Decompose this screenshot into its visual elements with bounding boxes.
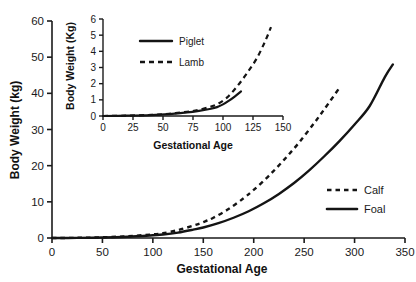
figure-container: 050100150200250300350 0102030405060 Gest… xyxy=(0,0,416,282)
main-legend: Calf Foal xyxy=(327,184,385,215)
x-tick-label: 150 xyxy=(194,246,213,258)
x-tick-label: 125 xyxy=(245,122,262,133)
y-tick-label: 20 xyxy=(31,160,44,172)
y-tick-label: 0 xyxy=(38,232,44,244)
y-tick-label: 50 xyxy=(31,51,44,63)
gestational-age-body-weight-chart: 050100150200250300350 0102030405060 Gest… xyxy=(0,0,416,282)
x-tick-label: 150 xyxy=(275,122,292,133)
inset-axes xyxy=(99,19,283,120)
inset-legend: Piglet Lamb xyxy=(140,36,204,68)
x-tick-label: 0 xyxy=(49,246,55,258)
main-x-axis-title: Gestational Age xyxy=(177,262,268,276)
main-y-axis-title: Body Weight (kg) xyxy=(8,81,22,179)
x-tick-label: 0 xyxy=(100,122,106,133)
main-x-tick-labels: 050100150200250300350 xyxy=(49,246,415,258)
y-tick-label: 4 xyxy=(90,46,96,57)
legend-label-foal: Foal xyxy=(364,203,385,215)
y-tick-label: 10 xyxy=(31,196,44,208)
y-tick-label: 6 xyxy=(90,14,96,25)
x-tick-label: 50 xyxy=(157,122,169,133)
x-tick-label: 75 xyxy=(187,122,199,133)
y-tick-label: 40 xyxy=(31,87,44,99)
inset-x-tick-labels: 0255075100125150 xyxy=(100,122,292,133)
y-tick-label: 60 xyxy=(31,15,44,27)
x-tick-label: 50 xyxy=(96,246,109,258)
inset-y-axis-title: Body Weight (Kg) xyxy=(64,22,76,110)
legend-label-piglet: Piglet xyxy=(179,36,204,47)
x-tick-label: 200 xyxy=(244,246,263,258)
y-tick-label: 3 xyxy=(90,62,96,73)
x-tick-label: 25 xyxy=(127,122,139,133)
legend-label-lamb: Lamb xyxy=(179,57,204,68)
x-tick-label: 100 xyxy=(143,246,162,258)
legend-label-calf: Calf xyxy=(364,184,385,196)
y-tick-label: 30 xyxy=(31,124,44,136)
x-tick-label: 300 xyxy=(345,246,364,258)
y-tick-label: 1 xyxy=(90,94,96,105)
inset-x-axis-title: Gestational Age xyxy=(153,139,233,151)
inset-plot: 0255075100125150 0123456 Gestational Age… xyxy=(64,14,292,151)
x-tick-label: 350 xyxy=(395,246,414,258)
inset-y-tick-labels: 0123456 xyxy=(90,14,96,122)
y-tick-label: 2 xyxy=(90,78,96,89)
y-tick-label: 0 xyxy=(90,111,96,122)
x-tick-label: 100 xyxy=(215,122,232,133)
x-tick-label: 250 xyxy=(295,246,314,258)
main-y-tick-labels: 0102030405060 xyxy=(31,15,44,244)
y-tick-label: 5 xyxy=(90,30,96,41)
